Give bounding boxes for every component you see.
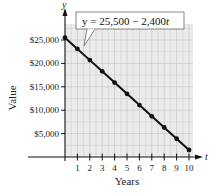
equation-text: y = 25,500 − 2,400 — [82, 15, 166, 27]
x-tick-label: 4 — [112, 163, 117, 173]
y-tick-label: $10,000 — [30, 105, 60, 115]
data-point — [75, 46, 80, 51]
data-point — [174, 136, 179, 141]
x-tick-label: 3 — [100, 163, 105, 173]
data-point — [187, 148, 192, 153]
x-tick-label: 2 — [88, 163, 93, 173]
x-tick-label: 7 — [150, 163, 155, 173]
y-tick-label: $5,000 — [34, 129, 59, 139]
data-point — [112, 80, 117, 85]
x-tick-label: 5 — [125, 163, 130, 173]
x-axis-var: t — [205, 151, 208, 162]
x-tick-label: 1 — [75, 163, 80, 173]
y-axis-var: y — [61, 0, 67, 10]
data-point — [87, 58, 92, 63]
data-point — [63, 35, 68, 40]
y-ticks: $5,000$10,000$15,000$20,000$25,000 — [30, 35, 65, 139]
svg-text:y = 25,500 − 2,400t: y = 25,500 − 2,400t — [82, 15, 170, 27]
y-tick-label: $25,000 — [30, 35, 60, 45]
data-point — [137, 103, 142, 108]
y-axis-title: Value — [6, 85, 18, 110]
x-tick-label: 10 — [185, 163, 195, 173]
data-point — [149, 114, 154, 119]
x-axis-title: Years — [115, 175, 140, 187]
y-tick-label: $20,000 — [30, 58, 60, 68]
y-tick-label: $15,000 — [30, 82, 60, 92]
x-tick-label: 6 — [137, 163, 142, 173]
x-tick-label: 9 — [174, 163, 179, 173]
data-point — [162, 125, 167, 130]
chart-root: y t $5,000$10,000$15,000$20,000$25,000 1… — [0, 0, 216, 195]
x-tick-label: 8 — [162, 163, 167, 173]
data-point — [125, 91, 130, 96]
x-axis-arrow-icon — [195, 155, 203, 160]
data-point — [100, 69, 105, 74]
